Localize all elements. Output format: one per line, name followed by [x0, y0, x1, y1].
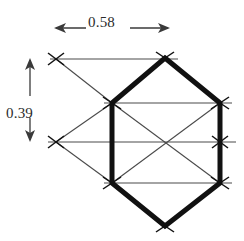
thin-line-diagonal-outer-upper	[56, 59, 112, 103]
figure-container: 0.58 0.39	[0, 0, 244, 241]
dimension-label-width: 0.58	[88, 14, 115, 31]
dimension-label-height: 0.39	[6, 105, 33, 122]
node-mark-bottom	[156, 220, 174, 232]
dimension-arrow-height	[6, 58, 46, 142]
node-mark-top	[156, 52, 174, 64]
lattice-diagram-svg	[0, 0, 244, 241]
